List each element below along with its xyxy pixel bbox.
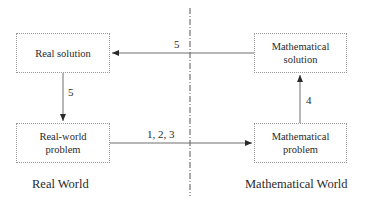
node-real-world-problem-line-1: Real-world — [39, 130, 86, 143]
node-mathematical-problem-line-1: Mathematical — [272, 130, 330, 143]
node-real-world-problem-line-2: problem — [39, 143, 86, 156]
edge-label-1-2-3: 1, 2, 3 — [147, 128, 175, 140]
node-real-solution: Real solution — [16, 33, 110, 73]
region-label-mathematical-world: Mathematical World — [245, 177, 348, 192]
node-mathematical-solution-line-2: solution — [272, 53, 330, 66]
edge-label-top-5: 5 — [174, 38, 180, 50]
node-mathematical-solution: Mathematical solution — [254, 33, 347, 73]
edge-label-4: 4 — [306, 94, 312, 106]
node-real-world-problem: Real-world problem — [16, 123, 110, 163]
node-mathematical-solution-line-1: Mathematical — [272, 40, 330, 53]
node-mathematical-problem: Mathematical problem — [254, 123, 347, 163]
region-label-real-world: Real World — [32, 177, 89, 192]
node-real-solution-line-1: Real solution — [35, 47, 91, 60]
edge-label-left-5: 5 — [68, 86, 74, 98]
diagram-connectors — [0, 0, 370, 201]
node-mathematical-problem-line-2: problem — [272, 143, 330, 156]
